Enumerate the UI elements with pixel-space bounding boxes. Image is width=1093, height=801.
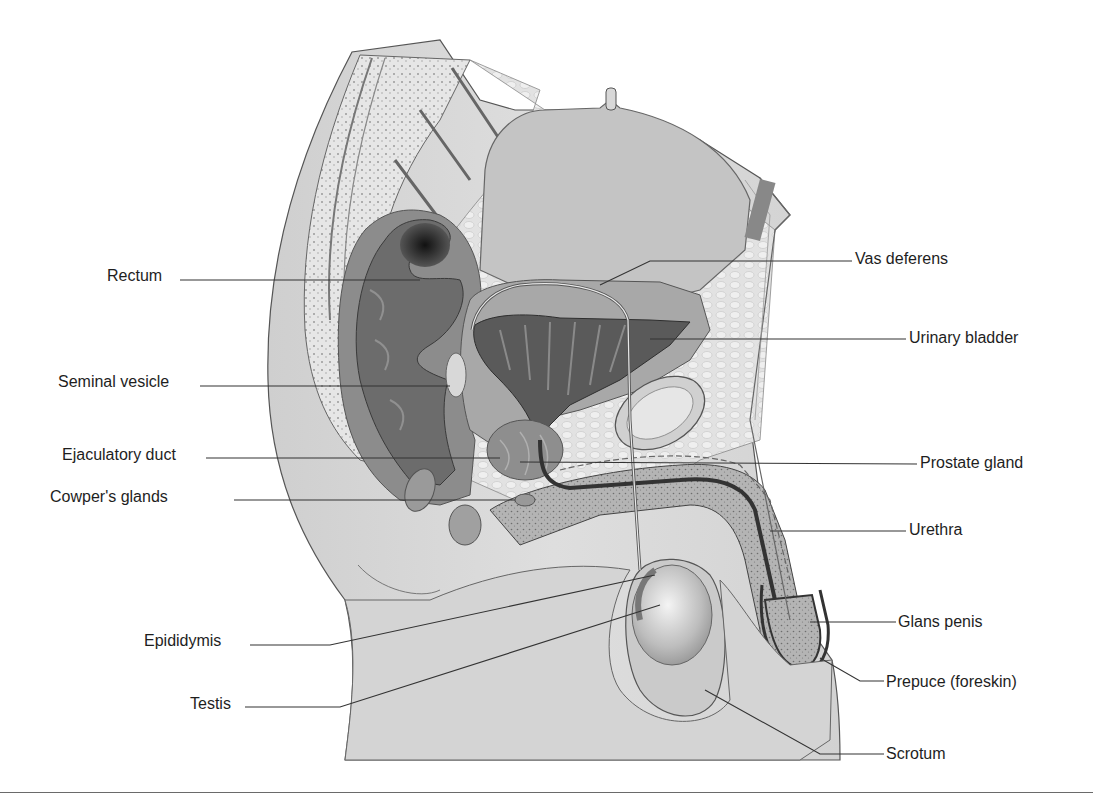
prostate-gland <box>487 420 563 480</box>
label-seminal-vesicle: Seminal vesicle <box>58 373 169 391</box>
label-urethra: Urethra <box>909 521 962 539</box>
label-vas-deferens: Vas deferens <box>855 250 948 268</box>
label-ejaculatory-duct: Ejaculatory duct <box>62 446 176 464</box>
seminal-vesicle <box>446 353 466 397</box>
label-prepuce: Prepuce (foreskin) <box>886 673 1017 691</box>
peritoneal-cavity <box>480 100 750 310</box>
label-prostate-gland: Prostate gland <box>920 454 1023 472</box>
label-urinary-bladder: Urinary bladder <box>909 329 1018 347</box>
label-testis: Testis <box>190 695 231 713</box>
label-rectum: Rectum <box>107 267 162 285</box>
label-scrotum: Scrotum <box>886 745 946 763</box>
label-glans-penis: Glans penis <box>898 613 983 631</box>
cowpers-glands <box>515 494 535 506</box>
label-epididymis: Epididymis <box>144 632 221 650</box>
bottom-divider <box>0 792 1093 793</box>
label-cowpers-glands: Cowper's glands <box>50 488 168 506</box>
